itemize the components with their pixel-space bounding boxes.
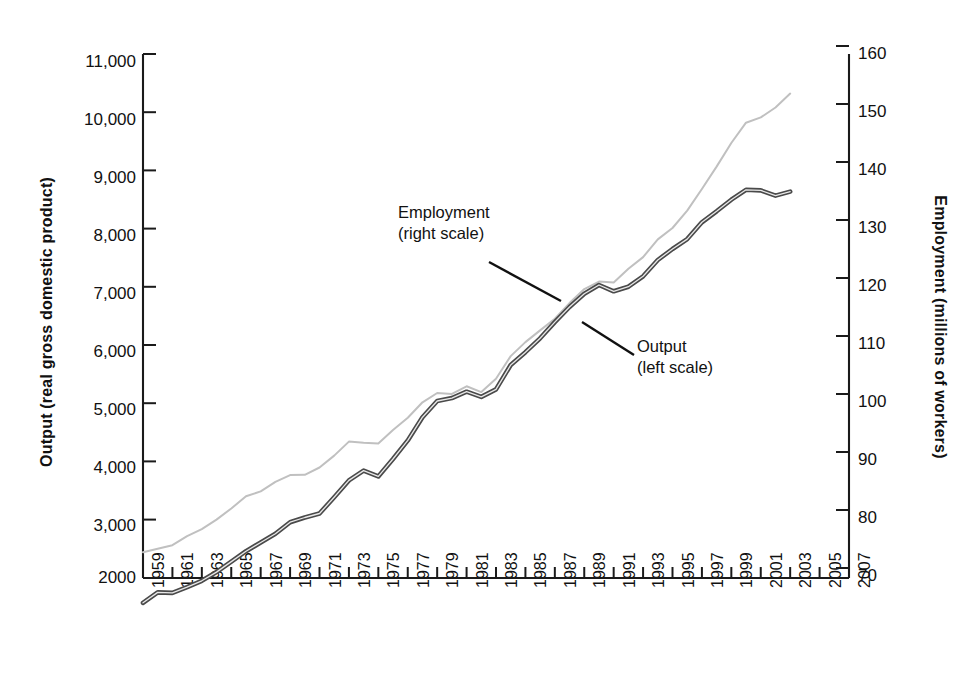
plot-area [0,0,977,684]
annotation-output: Output (left scale) [637,336,713,378]
leader-line-output [582,322,634,355]
chart-figure: Output (real gross domestic product) Emp… [0,0,977,684]
series-line-employment-highlight [143,190,790,603]
leader-line-employment [489,262,561,301]
series-line-output [143,94,790,553]
series-line-employment [143,190,790,603]
annotation-employment: Employment (right scale) [398,202,490,244]
